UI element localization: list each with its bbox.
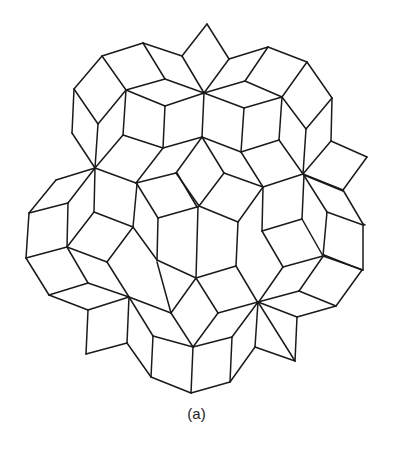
rhombus-tiling-diagram	[0, 0, 393, 456]
tile-edge	[26, 247, 67, 258]
tile-edge	[263, 174, 303, 187]
tile-edge	[94, 212, 133, 227]
tile-edge	[232, 302, 258, 337]
tile-edge	[279, 97, 282, 140]
tile-edge	[262, 231, 283, 267]
tile-edge	[202, 93, 204, 137]
tile-edge	[143, 43, 182, 56]
tile-edge	[177, 173, 197, 207]
tile-edge	[151, 336, 153, 377]
tile-edge	[196, 266, 236, 278]
tile-edge	[127, 343, 151, 377]
tile-edge	[126, 90, 165, 106]
tile-edge	[88, 283, 129, 297]
tile-edge	[204, 93, 244, 108]
tile-edge	[107, 262, 129, 297]
tile-edge	[304, 175, 343, 191]
tile-edge	[331, 141, 367, 157]
tile-edge	[236, 266, 258, 303]
tile-edge	[158, 207, 197, 218]
tile-edge	[336, 270, 362, 306]
tile-edge	[94, 168, 95, 212]
figure-caption: (a)	[0, 405, 393, 422]
tile-edge	[255, 302, 258, 347]
tile-edge	[324, 255, 362, 270]
tile-edge	[182, 56, 204, 93]
tile-edge	[204, 81, 245, 93]
tile-edge	[151, 377, 191, 393]
tile-edge	[303, 141, 331, 174]
tile-edge	[74, 56, 102, 89]
tile-edge	[230, 347, 255, 382]
tile-edge	[218, 302, 258, 313]
tile-edge	[230, 337, 232, 382]
tile-edge	[258, 267, 283, 303]
tile-edge	[268, 47, 307, 62]
tile-edge	[323, 212, 327, 256]
tile-edge	[299, 291, 336, 306]
tile-edge	[74, 89, 98, 124]
tile-edge	[202, 137, 241, 152]
tile-edge	[244, 97, 282, 108]
tile-edge	[102, 43, 143, 56]
tile-edge	[29, 203, 68, 213]
tile-edge	[262, 219, 302, 231]
tile-edge	[98, 90, 126, 124]
tile-edge	[123, 135, 163, 148]
tile-edge	[107, 227, 133, 262]
tile-edge	[165, 79, 204, 93]
tile-edge	[258, 302, 295, 361]
tile-edge	[49, 295, 88, 310]
tile-edge	[297, 306, 336, 317]
tile-edge	[137, 184, 158, 218]
tile-edge	[331, 98, 332, 141]
tile-edge	[302, 219, 323, 256]
tile-edge	[123, 90, 126, 135]
tile-edge	[238, 187, 263, 222]
tile-edge	[86, 310, 88, 354]
tile-edge	[255, 347, 295, 361]
tile-edge	[126, 79, 165, 90]
tile-edge	[307, 62, 332, 98]
tile-edge	[295, 317, 297, 361]
tile-edge	[127, 297, 129, 343]
tile-edge	[95, 135, 123, 168]
tile-edge	[157, 260, 196, 278]
tile-edge	[129, 297, 153, 336]
tile-edge	[258, 291, 299, 302]
tile-edge	[95, 124, 98, 168]
tile-edge	[56, 168, 95, 180]
tile-edge	[204, 59, 229, 93]
tile-edge	[245, 81, 282, 97]
tile-edge	[299, 255, 324, 291]
tile-edge	[176, 137, 202, 173]
tile-edge	[229, 47, 268, 59]
tile-edge	[86, 343, 127, 354]
tile-edge	[258, 302, 297, 317]
tile-edge	[29, 180, 56, 213]
tile-edge	[67, 203, 68, 247]
tile-edge	[26, 258, 49, 295]
tile-edge	[199, 206, 238, 222]
tile-edge	[279, 140, 303, 174]
tile-edge	[133, 227, 157, 260]
tile-edge	[224, 173, 263, 187]
tile-edge	[282, 97, 306, 129]
tile-edge	[306, 98, 332, 129]
tile-edge	[282, 62, 307, 97]
tile-edge	[182, 24, 207, 56]
tile-edge	[262, 187, 263, 231]
tile-edge	[191, 382, 230, 393]
tile-edge	[67, 212, 94, 247]
tile-edge	[72, 89, 74, 133]
tile-edge	[343, 157, 367, 190]
tile-edge	[68, 168, 95, 203]
tile-edge	[157, 218, 158, 260]
tile-edge	[302, 175, 304, 219]
tile-edge	[143, 43, 165, 79]
tile-edge	[72, 133, 95, 168]
tile-edge	[241, 140, 279, 152]
tile-edge	[363, 224, 365, 225]
tile-edge	[196, 207, 198, 278]
tile-edge	[67, 247, 107, 262]
